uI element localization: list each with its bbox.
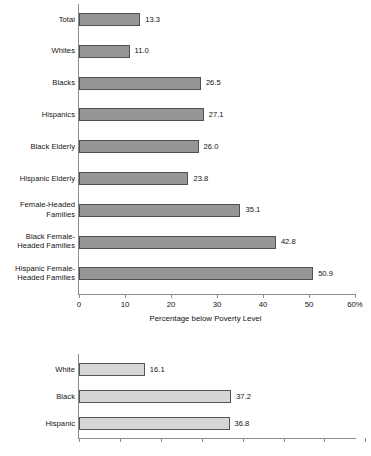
x-axis-title: Percentage below Poverty Level (0, 314, 371, 324)
bar-row: Black Female- Headed Families42.8 (0, 230, 371, 256)
bar-value-label: 13.3 (145, 15, 160, 25)
bar (79, 236, 276, 249)
bar-row: Black Elderly26.0 (0, 134, 371, 160)
x-axis-tick (125, 294, 126, 298)
x-axis-tick (243, 438, 244, 442)
bar-row: White16.1 (0, 357, 371, 383)
bar (79, 172, 188, 185)
category-label: Total (0, 15, 75, 24)
bar (79, 363, 145, 376)
x-axis-tick (355, 294, 356, 298)
bar (79, 417, 230, 430)
category-label: Whites (0, 46, 75, 55)
x-axis-tick (324, 438, 325, 442)
x-axis-tick (217, 294, 218, 298)
bar (79, 77, 201, 90)
x-axis-tick-label: 10 (121, 300, 130, 310)
category-label: Hispanic Elderly (0, 174, 75, 183)
x-axis-tick (284, 438, 285, 442)
bar-row: Female-Headed Families35.1 (0, 198, 371, 224)
category-label: Black Female- Headed Families (0, 232, 75, 250)
bar (79, 204, 240, 217)
bar-value-label: 11.0 (135, 46, 149, 56)
chart-poverty-by-race: White16.1Black37.2Hispanic36.8 (0, 348, 371, 456)
bar (79, 108, 204, 121)
bar-row: Hispanic Elderly23.8 (0, 166, 371, 192)
bar-value-label: 23.8 (193, 174, 208, 184)
chart-poverty-by-group: Total13.3Whites11.0Blacks26.5Hispanics27… (0, 0, 371, 330)
bar-value-label: 16.1 (150, 365, 165, 375)
bar-value-label: 26.0 (204, 142, 219, 152)
bar (79, 267, 313, 280)
bar-value-label: 37.2 (236, 392, 251, 402)
bar-value-label: 27.1 (209, 110, 224, 120)
bar-value-label: 42.8 (281, 237, 296, 247)
x-axis-tick (161, 438, 162, 442)
bar-row: Hispanic Female- Headed Families50.9 (0, 261, 371, 287)
bar (79, 140, 199, 153)
x-axis-tick-label: 30 (213, 300, 222, 310)
category-label: Hispanic Female- Headed Families (0, 264, 75, 282)
category-label: White (0, 365, 75, 374)
category-label: Hispanics (0, 110, 75, 119)
x-axis-tick (365, 438, 366, 442)
category-label: Black (0, 392, 75, 401)
poverty-bar-charts-figure: Total13.3Whites11.0Blacks26.5Hispanics27… (0, 0, 371, 456)
bar-value-label: 36.8 (235, 419, 250, 429)
bar-row: Hispanics27.1 (0, 102, 371, 128)
x-axis-tick-label: 0 (77, 300, 81, 310)
x-axis-tick (120, 438, 121, 442)
x-axis-tick (171, 294, 172, 298)
x-axis-tick-label: 60% (347, 300, 363, 310)
bar-row: Black37.2 (0, 384, 371, 410)
category-label: Blacks (0, 78, 75, 87)
x-axis-tick-label: 40 (259, 300, 268, 310)
bar-row: Hispanic36.8 (0, 411, 371, 437)
category-label: Black Elderly (0, 142, 75, 151)
bar-value-label: 35.1 (245, 205, 260, 215)
bar-row: Total13.3 (0, 7, 371, 33)
x-axis-tick (202, 438, 203, 442)
x-axis-tick-label: 50 (305, 300, 314, 310)
category-label: Female-Headed Families (0, 200, 75, 218)
bar (79, 45, 130, 58)
bar-row: Whites11.0 (0, 39, 371, 65)
bar (79, 13, 140, 26)
bar-value-label: 26.5 (206, 78, 221, 88)
x-axis-tick (309, 294, 310, 298)
bar-value-label: 50.9 (318, 269, 333, 279)
x-axis-tick (79, 294, 80, 298)
x-axis-tick-label: 20 (167, 300, 176, 310)
category-label: Hispanic (0, 419, 75, 428)
bar (79, 390, 231, 403)
x-axis-tick (79, 438, 80, 442)
x-axis-tick (263, 294, 264, 298)
bar-row: Blacks26.5 (0, 71, 371, 97)
